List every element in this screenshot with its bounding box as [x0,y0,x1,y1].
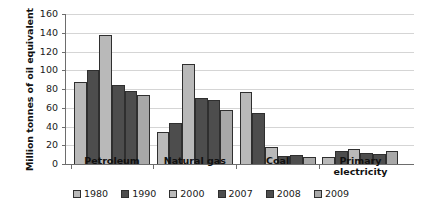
y-axis-label-0: 0 [18,158,58,169]
bar-1980-petroleum [74,82,87,164]
bar-2007-petroleum [112,85,125,164]
bar-group-primary-electricity [322,14,398,164]
bar-2000-petroleum [99,35,112,164]
legend-item-1990[interactable]: 1990 [121,188,156,199]
bar-chart: Million tonnes of oil equivalent 0204060… [0,0,422,214]
y-axis-label-80: 80 [18,83,58,94]
bars [74,14,150,164]
y-axis-label-140: 140 [18,27,58,38]
bar-group-petroleum [74,14,150,164]
bars [322,14,398,164]
legend-item-2008[interactable]: 2008 [266,188,301,199]
legend-item-2007[interactable]: 2007 [218,188,253,199]
legend-label: 2000 [180,188,204,199]
y-axis-label-40: 40 [18,121,58,132]
legend-swatch-icon [73,190,81,198]
legend-swatch-icon [266,190,274,198]
bar-2009-petroleum [137,95,150,164]
legend-label: 2008 [277,188,301,199]
legend-label: 1990 [132,188,156,199]
bar-groups [66,14,414,164]
legend-label: 2009 [325,188,349,199]
legend-item-2009[interactable]: 2009 [314,188,349,199]
legend-swatch-icon [218,190,226,198]
chart-legend: 198019902000200720082009 [0,188,422,199]
category-label-line: electricity [310,167,410,178]
y-axis-label-100: 100 [18,64,58,75]
bar-2000-natural-gas [182,64,195,164]
legend-swatch-icon [169,190,177,198]
legend-item-2000[interactable]: 2000 [169,188,204,199]
bar-2008-petroleum [125,91,138,164]
legend-label: 2007 [229,188,253,199]
bar-1980-coal [240,92,253,164]
bar-group-natural-gas [157,14,233,164]
bars [240,14,316,164]
legend-item-1980[interactable]: 1980 [73,188,108,199]
y-axis-label-160: 160 [18,8,58,19]
bar-group-coal [240,14,316,164]
y-axis-label-120: 120 [18,46,58,57]
legend-label: 1980 [84,188,108,199]
bar-1990-petroleum [87,70,100,164]
bars [157,14,233,164]
category-label-line: Primary [310,156,410,167]
category-label-primary-electricity: Primaryelectricity [310,156,410,177]
legend-swatch-icon [314,190,322,198]
plot-area [66,14,414,164]
legend-swatch-icon [121,190,129,198]
y-axis-label-20: 20 [18,139,58,150]
y-axis-label-60: 60 [18,102,58,113]
